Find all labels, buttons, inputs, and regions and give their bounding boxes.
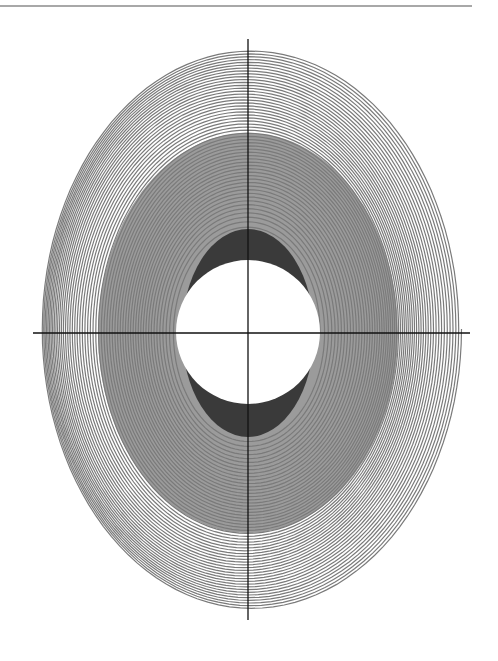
spiral-plot xyxy=(0,0,498,661)
